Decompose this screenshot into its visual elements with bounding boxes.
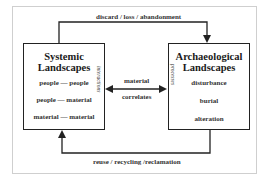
box-title: Landscapes	[24, 62, 104, 73]
middle-label-correlates: correlates	[122, 93, 151, 101]
bottom-flow-label: reuse / recycling /reclamation	[93, 158, 181, 166]
arrow-right-icon	[159, 85, 167, 93]
box-title: Landscapes	[169, 62, 249, 73]
box-item: material — material	[24, 113, 104, 121]
box-title: Systemic	[24, 51, 104, 62]
interactions-side-label: interactions	[96, 66, 102, 92]
box-item: people — material	[24, 96, 104, 104]
box-title: Archaeological	[169, 51, 249, 62]
archaeological-landscapes-box: Archaeological Landscapes disturbance bu…	[168, 43, 250, 130]
top-flow-label: discard / loss / abandonment	[96, 13, 181, 21]
box-item: burial	[169, 97, 249, 105]
systemic-landscapes-box: Systemic Landscapes people — people peop…	[23, 43, 105, 130]
arrow-left-icon	[105, 85, 113, 93]
processes-side-label: processes	[170, 64, 176, 85]
arrow-down-icon	[203, 35, 211, 43]
middle-label-material: material	[124, 77, 149, 85]
arrow-up-icon	[58, 130, 66, 138]
box-item: people — people	[24, 79, 104, 87]
box-item: alteration	[169, 115, 249, 123]
box-item: disturbance	[169, 79, 249, 87]
